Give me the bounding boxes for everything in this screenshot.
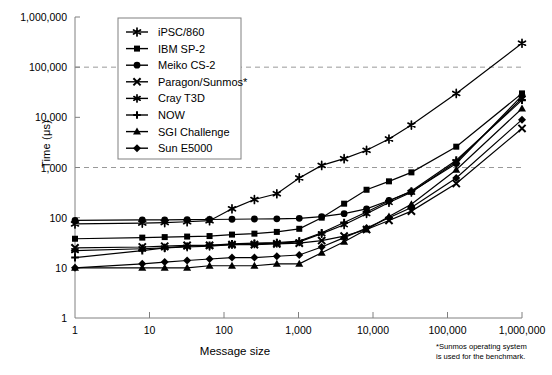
y-axis-tick-label: 10 bbox=[55, 262, 67, 274]
data-point-marker bbox=[386, 178, 392, 184]
data-point-marker bbox=[273, 190, 280, 198]
data-point-marker bbox=[134, 62, 141, 69]
data-point-marker bbox=[162, 234, 168, 240]
legend-item-label: Meiko CS-2 bbox=[158, 59, 215, 71]
data-point-marker bbox=[386, 135, 393, 143]
data-point-marker bbox=[364, 187, 370, 193]
data-point-marker bbox=[340, 219, 348, 227]
x-axis-tick-label: 10,000 bbox=[357, 324, 389, 336]
data-point-marker bbox=[72, 217, 79, 224]
y-axis-tick-label: 100 bbox=[49, 212, 67, 224]
data-point-marker bbox=[207, 233, 213, 239]
legend-item-label: Paragon/Sunmos* bbox=[158, 76, 248, 88]
data-point-marker bbox=[161, 217, 168, 224]
legend-item-label: NOW bbox=[158, 109, 186, 121]
data-point-marker bbox=[229, 216, 236, 223]
data-point-marker bbox=[161, 258, 169, 266]
data-point-marker bbox=[251, 196, 258, 204]
data-point-marker bbox=[296, 226, 302, 232]
data-point-marker bbox=[273, 252, 281, 260]
x-axis-tick-label: 100 bbox=[215, 324, 233, 336]
data-point-marker bbox=[134, 46, 140, 52]
data-point-marker bbox=[318, 161, 325, 169]
legend-item-label: Sun E5000 bbox=[158, 142, 212, 154]
y-axis-title: Time (μs) bbox=[40, 84, 52, 204]
chart-footnote: *Sunmos operating system is used for the… bbox=[436, 342, 552, 362]
y-axis-tick-label: 1,000,000 bbox=[20, 11, 67, 23]
data-point-marker bbox=[229, 205, 236, 213]
x-axis-tick-label: 1,000 bbox=[285, 324, 311, 336]
legend-item-label: iPSC/860 bbox=[158, 26, 204, 38]
x-axis-tick-label: 1,000,000 bbox=[499, 324, 546, 336]
data-point-marker bbox=[71, 254, 79, 262]
data-point-marker bbox=[273, 215, 280, 222]
data-point-marker bbox=[296, 215, 303, 222]
footnote-line-2: is used for the benchmark. bbox=[436, 352, 552, 362]
data-point-marker bbox=[206, 255, 214, 263]
data-point-marker bbox=[206, 216, 213, 223]
data-point-marker bbox=[407, 203, 415, 211]
data-point-marker bbox=[139, 235, 145, 241]
data-point-marker bbox=[139, 217, 146, 224]
data-point-marker bbox=[518, 104, 526, 111]
data-point-marker bbox=[228, 254, 236, 262]
data-point-marker bbox=[251, 231, 257, 237]
legend-item-label: SGI Challenge bbox=[158, 126, 230, 138]
data-point-marker bbox=[518, 125, 525, 132]
data-point-marker bbox=[296, 174, 303, 182]
data-point-marker bbox=[183, 257, 191, 265]
data-point-marker bbox=[453, 89, 460, 97]
data-point-marker bbox=[363, 146, 370, 154]
x-axis-title: Message size bbox=[0, 345, 470, 357]
data-point-marker bbox=[138, 260, 146, 268]
y-axis-tick-label: 1 bbox=[61, 312, 67, 324]
x-axis-tick-label: 1 bbox=[72, 324, 78, 336]
legend-item-label: IBM SP-2 bbox=[158, 43, 205, 55]
data-point-marker bbox=[408, 121, 415, 129]
data-point-marker bbox=[341, 155, 348, 163]
data-point-marker bbox=[184, 216, 191, 223]
data-point-marker bbox=[341, 210, 348, 217]
data-point-marker bbox=[295, 251, 303, 259]
legend-box bbox=[118, 18, 241, 159]
legend-item[interactable]: iPSC/860 bbox=[126, 26, 204, 38]
data-point-marker bbox=[519, 39, 526, 47]
data-point-marker bbox=[318, 213, 325, 220]
data-point-marker bbox=[72, 236, 78, 242]
chart-container: 1101001,00010,000100,0001,000,0001101001… bbox=[0, 0, 552, 375]
line-chart-plot: 1101001,00010,000100,0001,000,0001101001… bbox=[0, 0, 552, 375]
legend-item-label: Cray T3D bbox=[158, 92, 205, 104]
data-point-marker bbox=[408, 169, 414, 175]
data-point-marker bbox=[274, 229, 280, 235]
data-point-marker bbox=[250, 254, 258, 262]
data-point-marker bbox=[184, 234, 190, 240]
data-point-marker bbox=[341, 201, 347, 207]
data-point-marker bbox=[251, 216, 258, 223]
data-point-marker bbox=[161, 244, 169, 252]
footnote-line-1: *Sunmos operating system bbox=[436, 342, 552, 352]
x-axis-tick-label: 10 bbox=[144, 324, 156, 336]
x-axis-tick-label: 100,000 bbox=[429, 324, 467, 336]
y-axis-tick-label: 100,000 bbox=[29, 61, 67, 73]
data-point-marker bbox=[229, 232, 235, 238]
data-point-marker bbox=[453, 144, 459, 150]
